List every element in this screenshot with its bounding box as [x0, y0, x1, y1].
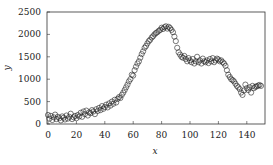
y-tick-label: 2500	[18, 7, 41, 17]
y-tick-label: 2000	[18, 29, 41, 39]
x-tick-label: 0	[45, 130, 51, 140]
x-tick-label: 40	[99, 130, 111, 140]
y-tick-label: 0	[35, 119, 41, 129]
x-tick-label: 60	[127, 130, 139, 140]
data-point	[236, 85, 241, 90]
data-point	[173, 39, 178, 44]
data-point	[138, 55, 143, 60]
data-point	[131, 73, 136, 78]
x-axis-label: x	[152, 146, 157, 156]
x-tick-label: 120	[210, 130, 227, 140]
data-point	[133, 64, 138, 69]
data-point	[118, 95, 123, 100]
y-axis-ticks: 05001000150020002500	[18, 7, 50, 129]
data-point	[195, 54, 200, 59]
x-tick-label: 140	[238, 130, 255, 140]
plot-frame	[47, 12, 265, 124]
y-axis-label: y	[2, 65, 12, 72]
y-tick-label: 500	[24, 97, 41, 107]
data-point	[151, 34, 156, 39]
data-point	[132, 68, 137, 73]
y-tick-label: 1500	[18, 52, 41, 62]
data-point	[230, 78, 235, 83]
y-tick-label: 1000	[18, 74, 41, 84]
x-tick-label: 100	[181, 130, 198, 140]
x-tick-label: 20	[71, 130, 83, 140]
x-tick-label: 80	[156, 130, 168, 140]
scatter-chart: 020406080100120140 05001000150020002500 …	[0, 0, 273, 165]
data-points	[45, 24, 263, 123]
